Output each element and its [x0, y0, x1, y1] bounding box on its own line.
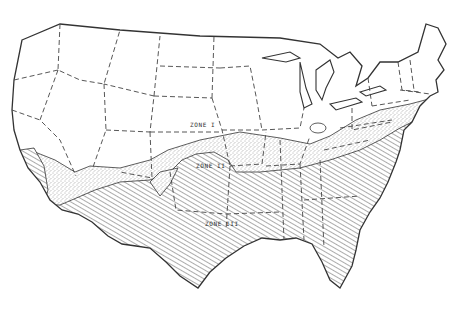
us-zone-map: ZONE I ZONE II ZONE III: [0, 0, 464, 313]
zone-1-label: ZONE I: [190, 121, 215, 128]
zone-2-label: ZONE II: [196, 162, 226, 169]
map-caption: [292, 304, 296, 313]
zone-3-label: ZONE III: [205, 220, 239, 227]
